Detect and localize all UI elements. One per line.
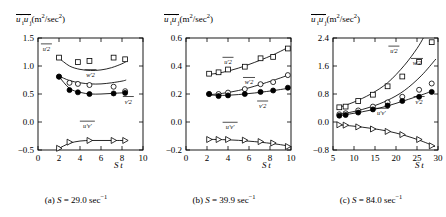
marker-u2 — [371, 92, 376, 97]
marker-v2 — [429, 89, 434, 94]
marker-uv — [385, 128, 390, 134]
x-tick-label-a-1: 2 — [57, 153, 62, 163]
curve-label-vv-a: v′2 — [125, 98, 132, 105]
y-axis-label-c: u′iu′j(m2/sec2) — [311, 14, 360, 24]
marker-w2 — [417, 87, 422, 92]
y-tick-label-c-4: 2.4 — [318, 33, 330, 43]
marker-u2 — [242, 64, 247, 69]
y-tick-label-a-2: 0.5 — [23, 89, 35, 99]
fit-curve-u2-fit-c — [339, 38, 423, 107]
marker-w2 — [87, 83, 92, 88]
plot-area-a: 0246810−0.50.00.51.01.5u′2w′2v′2u′v′ — [2, 28, 150, 188]
caption-b: (b) S = 39.9 sec−1 — [150, 195, 298, 205]
marker-uv — [123, 137, 128, 143]
marker-u2 — [258, 56, 263, 61]
caption-a: (a) S = 29.0 sec−1 — [2, 195, 150, 205]
marker-u2 — [271, 55, 276, 60]
curve-label-uu-a: u′2 — [43, 45, 51, 52]
marker-v2 — [226, 93, 231, 98]
marker-v2 — [285, 85, 290, 90]
y-tick-label-b-4: 0.6 — [171, 33, 183, 43]
marker-u2 — [285, 46, 290, 51]
x-axis-label-c: S t — [415, 160, 424, 170]
marker-w2 — [242, 87, 247, 92]
curve-label-ww-b: w′2 — [245, 78, 254, 85]
marker-w2 — [111, 84, 116, 89]
marker-uv — [371, 126, 376, 132]
x-axis-label-a: S t — [114, 160, 123, 170]
marker-v2 — [271, 88, 276, 93]
x-tick-label-b-1: 2 — [205, 153, 210, 163]
marker-uv — [67, 139, 72, 145]
x-tick-label-c-2: 15 — [371, 153, 381, 163]
marker-uv — [429, 143, 434, 149]
marker-uv — [400, 132, 405, 138]
marker-uv — [356, 124, 361, 130]
figure-root: u′iu′j(m2/sec2) 0246810−0.50.00.51.01.5u… — [0, 0, 446, 217]
marker-v2 — [111, 91, 116, 96]
plot-area-b: 0246810−0.20.00.20.40.6u′2w′2v′2u′v′ — [150, 28, 298, 188]
x-tick-label-c-5: 30 — [434, 153, 444, 163]
y-tick-label-c-2: 0.8 — [318, 89, 330, 99]
marker-uv — [87, 137, 92, 143]
x-tick-label-a-5: 10 — [139, 153, 149, 163]
marker-v2 — [216, 94, 221, 99]
marker-v2 — [67, 88, 72, 93]
y-tick-label-a-3: 1.0 — [23, 61, 35, 71]
marker-u2 — [123, 57, 128, 62]
y-tick-label-a-0: −0.5 — [18, 145, 35, 155]
x-tick-label-a-3: 6 — [99, 153, 104, 163]
marker-v2 — [343, 113, 348, 118]
panel-a: u′iu′j(m2/sec2) 0246810−0.50.00.51.01.5u… — [2, 0, 150, 217]
y-tick-label-a-1: 0.0 — [23, 117, 35, 127]
marker-uv — [258, 139, 263, 145]
marker-w2 — [429, 81, 434, 86]
curve-labels-c: u′2w′2v′2u′v′ — [374, 46, 425, 116]
marker-w2 — [285, 73, 290, 78]
marker-u2 — [57, 55, 62, 60]
data-markers-b — [207, 46, 291, 149]
marker-u2 — [337, 105, 342, 110]
marker-v2 — [123, 90, 128, 95]
y-tick-label-b-1: 0.0 — [171, 117, 183, 127]
marker-w2 — [271, 80, 276, 85]
x-tick-label-b-0: 0 — [184, 153, 189, 163]
marker-u2 — [385, 84, 390, 89]
curve-label-ww-a: w′2 — [86, 71, 95, 78]
y-axis-label-b: u′iu′j(m2/sec2) — [164, 14, 213, 24]
marker-uv — [207, 137, 212, 143]
x-tick-label-c-1: 10 — [350, 153, 360, 163]
curve-label-uv-a: u′v′ — [83, 122, 92, 129]
marker-w2 — [75, 81, 80, 86]
marker-uv — [216, 137, 221, 143]
y-tick-label-c-1: 0.0 — [318, 117, 330, 127]
marker-u2 — [226, 67, 231, 72]
fit-curve-uv-fit-b — [209, 139, 290, 146]
curve-label-uv-b: u′v′ — [226, 123, 235, 130]
x-axis-label-b: S t — [262, 160, 271, 170]
marker-uv — [285, 144, 290, 150]
fit-curve-uv-fit-c — [339, 125, 435, 147]
x-tick-label-c-3: 20 — [392, 153, 402, 163]
marker-v2 — [207, 92, 212, 97]
y-tick-label-c-0: −0.8 — [313, 145, 330, 155]
y-tick-label-b-2: 0.2 — [171, 89, 182, 99]
marker-v2 — [75, 90, 80, 95]
curve-label-ww-c: w′2 — [413, 59, 422, 66]
panel-b: u′iu′j(m2/sec2) 0246810−0.20.00.20.40.6u… — [150, 0, 298, 217]
y-tick-label-c-3: 1.6 — [318, 61, 330, 71]
marker-v2 — [242, 92, 247, 97]
marker-v2 — [57, 74, 62, 79]
marker-u2 — [343, 104, 348, 109]
curve-label-vv-c: v′2 — [415, 98, 422, 105]
curve-label-vv-b: v′2 — [259, 102, 266, 109]
panel-c: u′iu′j(m2/sec2) 51015202530−0.80.00.81.6… — [297, 0, 445, 217]
marker-v2 — [400, 99, 405, 104]
marker-v2 — [370, 107, 375, 112]
y-tick-label-b-3: 0.4 — [171, 61, 183, 71]
data-markers-c — [337, 40, 435, 149]
x-tick-label-b-2: 4 — [226, 153, 231, 163]
y-tick-label-b-0: −0.2 — [166, 145, 182, 155]
marker-uv — [242, 137, 247, 143]
marker-w2 — [258, 82, 263, 87]
